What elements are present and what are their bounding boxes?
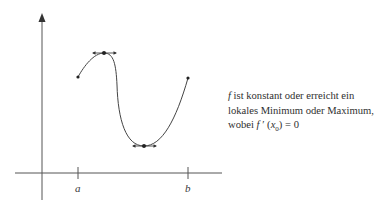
caption-line-2: lokales Minimum oder Maximum,	[228, 104, 391, 119]
max-tangent	[92, 51, 117, 55]
function-curve	[78, 53, 188, 146]
minimum-point	[142, 144, 146, 148]
tangent-arrow-right-icon	[154, 144, 158, 147]
caption-line-1: f ist konstant oder erreicht ein	[228, 89, 391, 104]
min-tangent	[132, 144, 157, 148]
caption-text-3: wobei	[228, 119, 257, 130]
tick-label-a: a	[75, 182, 81, 194]
start-point	[76, 75, 79, 78]
maximum-point	[102, 51, 106, 55]
end-point	[186, 76, 189, 79]
tick-label-b: b	[185, 182, 191, 194]
caption: f ist konstant oder erreicht ein lokales…	[228, 89, 391, 137]
prime-open: ′ (	[260, 119, 271, 130]
caption-text-1: ist konstant oder erreicht ein	[231, 90, 354, 101]
y-axis-arrow-icon	[39, 13, 46, 22]
caption-line-3: wobei f ′ (x0) = 0	[228, 118, 391, 137]
equation-end: ) = 0	[279, 119, 299, 130]
tangent-arrow-left-icon	[132, 144, 136, 147]
tangent-arrow-left-icon	[92, 51, 96, 54]
tangent-arrow-right-icon	[114, 51, 118, 54]
